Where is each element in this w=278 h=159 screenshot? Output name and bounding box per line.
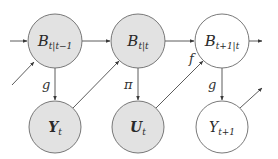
edge-label-f: f (188, 51, 196, 66)
edge-u-t-to-b-next (156, 61, 203, 108)
edge-incoming-diagonal-to-b-prior (12, 62, 34, 85)
bayesian-network-diagram: g π f g Bt|t−1 Bt|t Bt+1|t Yt Ut (0, 0, 278, 159)
node-b-next: Bt+1|t (195, 14, 249, 68)
node-y-next: Yt+1 (196, 101, 248, 153)
node-u-t: Ut (112, 101, 164, 153)
edge-label-pi: π (123, 77, 133, 92)
edge-y-t-to-b-posterior (73, 61, 119, 108)
node-b-prior: Bt|t−1 (28, 14, 82, 68)
edge-y-next-to-outgoing (240, 88, 262, 108)
edge-label-g-left: g (42, 77, 50, 92)
node-b-posterior: Bt|t (111, 14, 165, 68)
edge-label-g-right: g (208, 77, 216, 92)
node-y-t: Yt (29, 101, 81, 153)
